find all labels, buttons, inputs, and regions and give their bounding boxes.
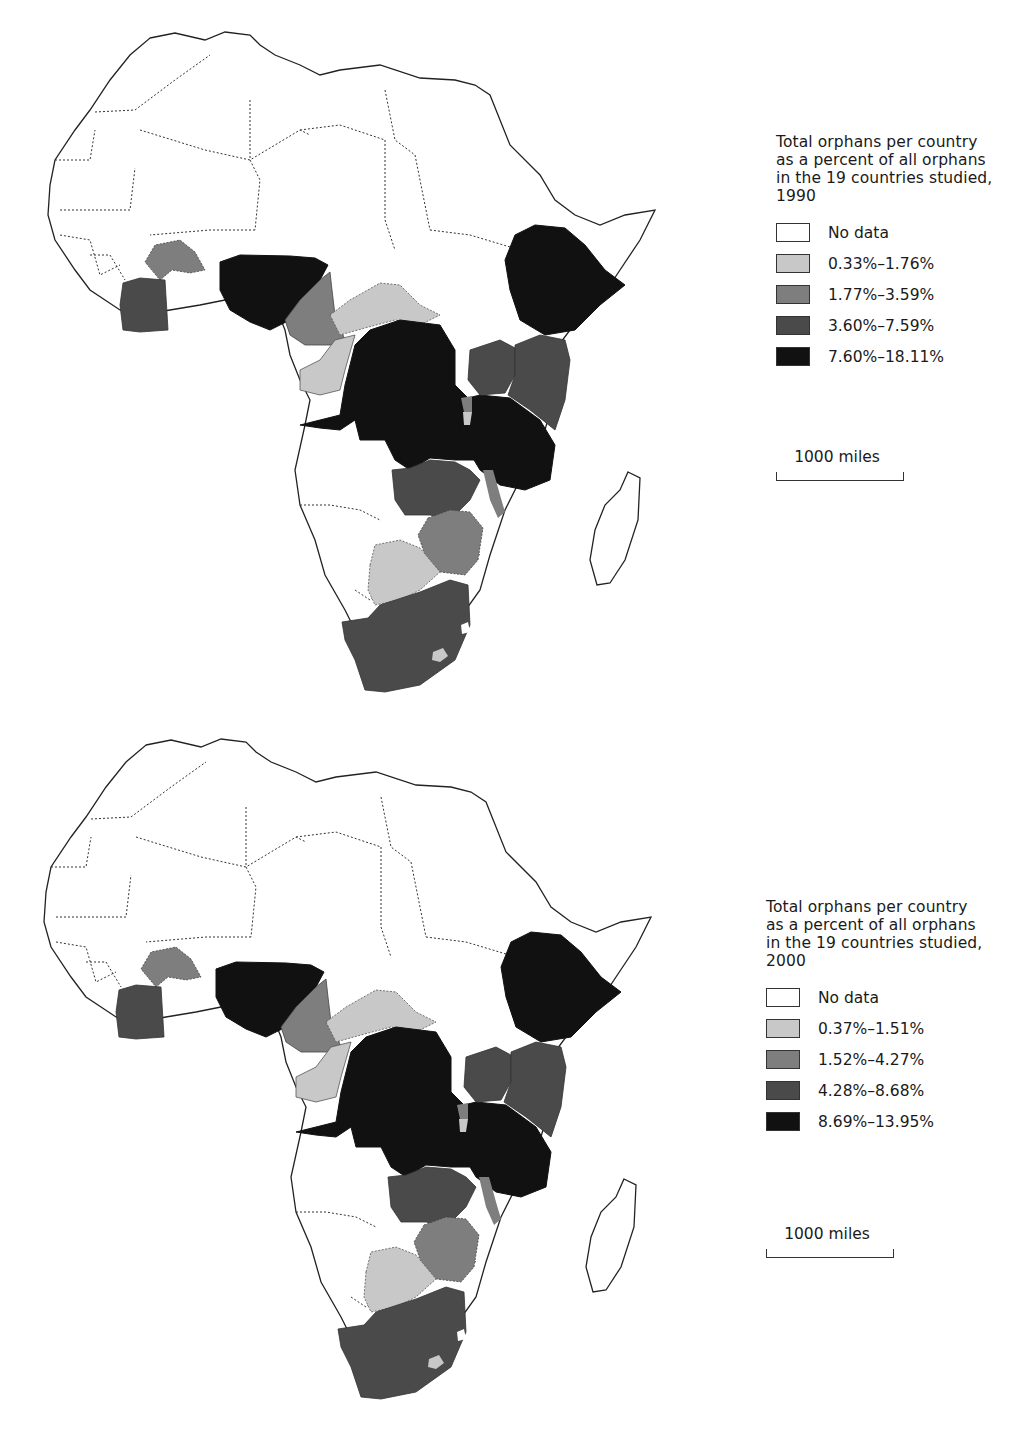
legend-title-line: in the 19 countries studied, — [776, 169, 1026, 187]
legend-item-class-1: 0.33%–1.76% — [776, 248, 1026, 279]
map-geometry — [44, 739, 651, 1399]
legend-label: 1.52%–4.27% — [818, 1051, 924, 1069]
legend-swatch — [776, 316, 810, 335]
legend-label: 7.60%–18.11% — [828, 348, 944, 366]
legend-swatch — [766, 1112, 800, 1131]
country-uganda — [468, 340, 515, 395]
country-cote-divoire — [116, 985, 164, 1039]
map-panel-1990: Total orphans per country as a percent o… — [0, 0, 1032, 715]
legend-label: 1.77%–3.59% — [828, 286, 934, 304]
legend-item-class-3: 3.60%–7.59% — [776, 310, 1026, 341]
legend-label: 0.33%–1.76% — [828, 255, 934, 273]
legend-swatch — [766, 1019, 800, 1038]
africa-map-2000 — [0, 715, 720, 1430]
legend-title-line: 2000 — [766, 952, 1016, 970]
map-panel-2000: Total orphans per country as a percent o… — [0, 715, 1032, 1430]
legend-item-no-data: No data — [766, 982, 1016, 1013]
legend-label: No data — [828, 224, 889, 242]
legend-swatch — [766, 988, 800, 1007]
legend-title-line: 1990 — [776, 187, 1026, 205]
scale-bar-2000: 1000 miles — [766, 1225, 896, 1258]
legend-label: 3.60%–7.59% — [828, 317, 934, 335]
legend-title: Total orphans per country as a percent o… — [766, 898, 1016, 970]
legend-item-class-4: 8.69%–13.95% — [766, 1106, 1016, 1137]
legend-title-line: as a percent of all orphans — [776, 151, 1026, 169]
scale-label: 1000 miles — [772, 448, 902, 466]
legend-swatch — [776, 285, 810, 304]
legend-label: 8.69%–13.95% — [818, 1113, 934, 1131]
legend-swatch — [776, 254, 810, 273]
legend-swatch — [766, 1050, 800, 1069]
scale-bar-line — [766, 1249, 894, 1258]
legend-swatch — [776, 347, 810, 366]
legend-1990: Total orphans per country as a percent o… — [776, 133, 1026, 372]
legend-swatch — [766, 1081, 800, 1100]
scale-label: 1000 miles — [762, 1225, 892, 1243]
legend-label: 0.37%–1.51% — [818, 1020, 924, 1038]
legend-item-class-1: 0.37%–1.51% — [766, 1013, 1016, 1044]
legend-label: No data — [818, 989, 879, 1007]
map-geometry — [48, 32, 655, 692]
legend-item-no-data: No data — [776, 217, 1026, 248]
legend-item-class-4: 7.60%–18.11% — [776, 341, 1026, 372]
country-cote-divoire — [120, 278, 168, 332]
madagascar-outline — [586, 1179, 636, 1292]
legend-title-line: Total orphans per country — [776, 133, 1026, 151]
legend-item-class-2: 1.77%–3.59% — [776, 279, 1026, 310]
scale-bar-line — [776, 472, 904, 481]
legend-swatch — [776, 223, 810, 242]
madagascar-outline — [590, 472, 640, 585]
legend-title-line: in the 19 countries studied, — [766, 934, 1016, 952]
scale-bar-1990: 1000 miles — [776, 448, 906, 481]
legend-label: 4.28%–8.68% — [818, 1082, 924, 1100]
legend-title-line: Total orphans per country — [766, 898, 1016, 916]
legend-item-class-3: 4.28%–8.68% — [766, 1075, 1016, 1106]
legend-2000: Total orphans per country as a percent o… — [766, 898, 1016, 1137]
legend-title-line: as a percent of all orphans — [766, 916, 1016, 934]
country-uganda — [464, 1047, 511, 1102]
legend-title: Total orphans per country as a percent o… — [776, 133, 1026, 205]
legend-item-class-2: 1.52%–4.27% — [766, 1044, 1016, 1075]
africa-map-1990 — [0, 0, 720, 715]
